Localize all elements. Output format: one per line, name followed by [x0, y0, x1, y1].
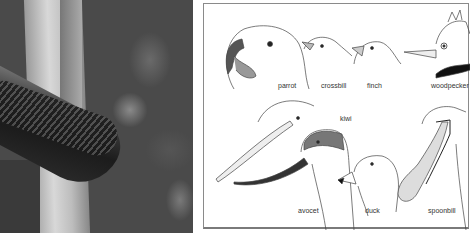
tree-bark: [0, 160, 40, 233]
label-parrot: parrot: [278, 82, 296, 89]
parrot-head-outline: [227, 26, 309, 89]
bird-heads-illustration: [204, 4, 470, 230]
bird-photograph: [0, 0, 193, 233]
label-kiwi: kiwi: [340, 115, 352, 122]
label-duck: duck: [365, 207, 380, 214]
label-finch: finch: [367, 82, 382, 89]
label-avocet: avocet: [298, 207, 319, 214]
label-crossbill: crossbill: [321, 82, 346, 89]
label-woodpecker: woodpecker: [431, 82, 469, 89]
label-spoonbill: spoonbill: [428, 207, 456, 214]
bird-beak-diagram: parrot crossbill finch woodpecker kiwi a…: [203, 3, 469, 229]
